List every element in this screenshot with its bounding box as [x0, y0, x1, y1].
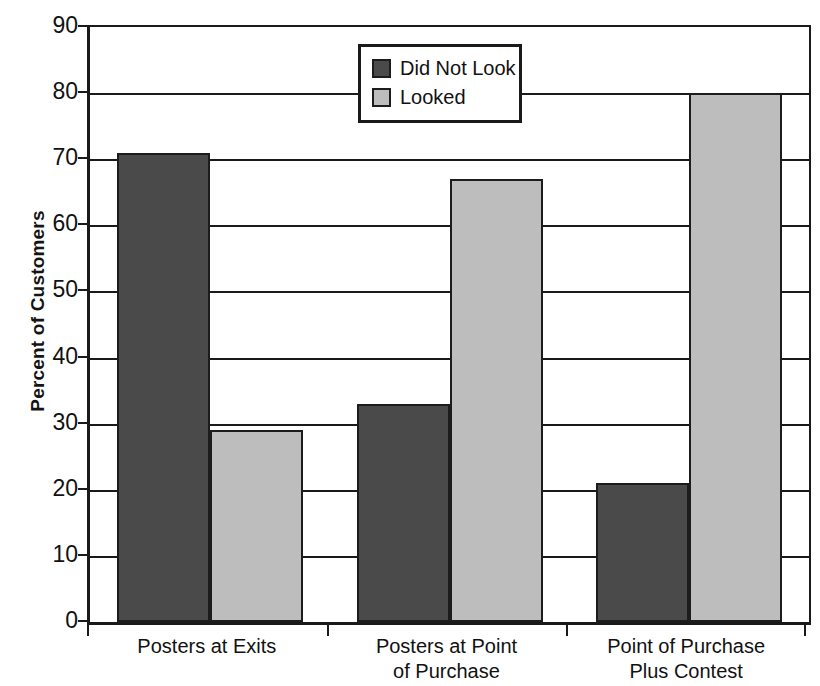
- legend-label: Did Not Look: [400, 57, 516, 80]
- y-axis-tick-label: 10: [34, 542, 78, 565]
- x-axis-category-label: Posters at Exits: [87, 634, 327, 659]
- legend: Did Not LookLooked: [358, 44, 522, 123]
- x-axis-category-label-line: Posters at Point: [327, 634, 567, 659]
- y-axis-tick-label: 40: [34, 344, 78, 367]
- bar-chart: Percent of Customers 0102030405060708090…: [0, 0, 820, 686]
- x-axis-category-label: Point of PurchasePlus Contest: [566, 634, 806, 684]
- bar: [596, 483, 689, 622]
- x-axis-category-label: Posters at Pointof Purchase: [327, 634, 567, 684]
- y-axis-tick-label: 60: [34, 212, 78, 235]
- x-axis-category-label-line: Posters at Exits: [87, 634, 327, 659]
- legend-label: Looked: [400, 86, 466, 109]
- y-axis-tick-labels: 0102030405060708090: [20, 0, 78, 686]
- y-axis-tick-label: 30: [34, 410, 78, 433]
- bar: [450, 179, 543, 622]
- legend-swatch-icon: [372, 88, 391, 107]
- y-axis-tick-label: 0: [34, 609, 78, 632]
- x-axis-category-label-line: Plus Contest: [566, 659, 806, 684]
- y-axis-tick-label: 80: [34, 80, 78, 103]
- bar: [357, 404, 450, 622]
- bar: [117, 153, 210, 622]
- y-axis-tick-label: 20: [34, 476, 78, 499]
- legend-item: Looked: [372, 83, 509, 112]
- x-axis-category-labels: Posters at ExitsPosters at Pointof Purch…: [87, 634, 806, 686]
- x-axis-category-label-line: of Purchase: [327, 659, 567, 684]
- bar: [210, 430, 303, 622]
- y-axis-tick-label: 70: [34, 146, 78, 169]
- y-axis-tick-label: 90: [34, 14, 78, 37]
- y-axis-tick-label: 50: [34, 278, 78, 301]
- bar: [689, 93, 782, 622]
- x-axis-category-label-line: Point of Purchase: [566, 634, 806, 659]
- legend-item: Did Not Look: [372, 54, 509, 83]
- legend-swatch-icon: [372, 59, 391, 78]
